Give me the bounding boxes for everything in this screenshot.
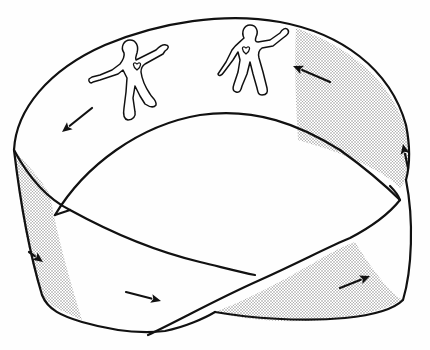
shade-bottom-right — [215, 242, 403, 321]
figure-right — [218, 25, 289, 95]
shaded-underside-regions — [14, 28, 410, 321]
person-outline-icon — [89, 40, 168, 120]
mobius-diagram — [0, 0, 430, 350]
mobius-strip-illustration — [0, 0, 430, 350]
arrow-bottom-middle-icon — [126, 292, 161, 303]
shade-left-lower — [14, 150, 82, 320]
person-outline-icon — [218, 25, 289, 95]
figure-left — [89, 40, 168, 120]
arrow-top-left-icon — [62, 108, 92, 132]
